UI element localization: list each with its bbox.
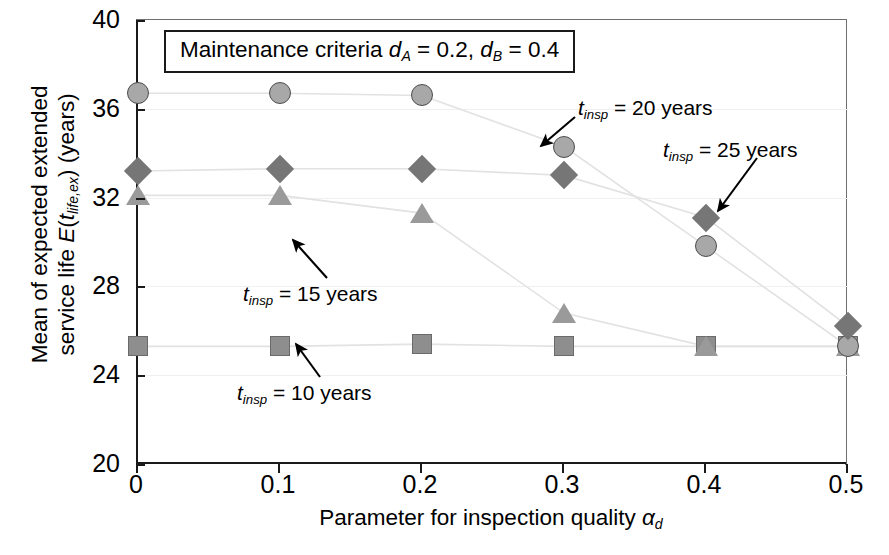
annotation-tinsp-15: tinsp = 15 years (243, 283, 378, 307)
annotation-tinsp-20: tinsp = 20 years (578, 97, 713, 121)
annotation-tinsp-25: tinsp = 25 years (663, 139, 798, 163)
annotation-arrows (0, 0, 889, 555)
chart-figure: 403632282420 00.10.20.30.40.5 Mean of ex… (0, 0, 889, 555)
annotation-tinsp-10: tinsp = 10 years (237, 382, 372, 406)
